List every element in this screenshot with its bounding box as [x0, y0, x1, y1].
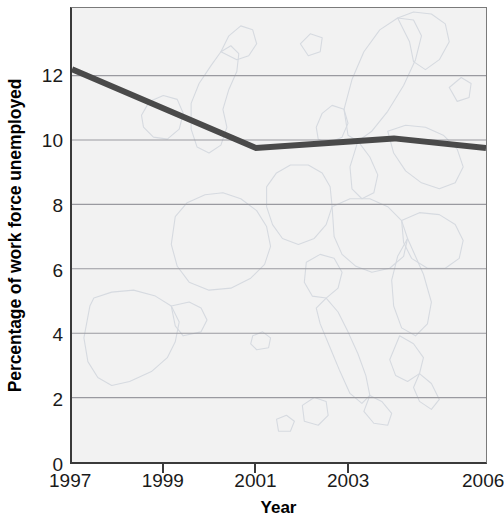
x-axis-title: Year: [70, 498, 487, 518]
y-axis-tick-label: 8: [52, 195, 63, 214]
y-axis-tick-label: 2: [52, 390, 63, 409]
data-series-layer: [72, 8, 486, 462]
unemployment-line-chart: Percentage of work force unemployed 0246…: [0, 0, 504, 526]
y-axis-tick-label: 10: [42, 130, 63, 149]
data-line-series-0: [72, 69, 486, 148]
y-axis-title-text: Percentage of work force unemployed: [6, 78, 27, 392]
y-axis-title: Percentage of work force unemployed: [0, 0, 32, 470]
y-axis-tick-label: 6: [52, 260, 63, 279]
x-axis-tick-label: 1997: [49, 470, 91, 492]
x-axis-tick-labels: 19971999200120032006: [0, 470, 504, 500]
y-axis-tick-labels: 024681012: [30, 0, 68, 480]
x-axis-tick-label: 1999: [142, 470, 184, 492]
x-axis-tick-label: 2001: [234, 470, 276, 492]
y-axis-tick-label: 4: [52, 325, 63, 344]
y-axis-tick-label: 12: [42, 66, 63, 85]
plot-area: [70, 7, 487, 464]
x-axis-tick-label: 2006: [462, 470, 504, 492]
x-axis-tick-label: 2003: [327, 470, 369, 492]
